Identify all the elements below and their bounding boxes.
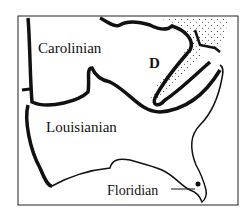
region-label-floridian: Floridian — [107, 183, 158, 199]
region-label-d: D — [149, 55, 160, 72]
carolinian-stub — [22, 89, 30, 90]
region-label-carolinian: Carolinian — [38, 40, 101, 57]
louisianian-boundary — [27, 105, 52, 186]
region-label-louisianian: Louisianian — [46, 119, 117, 136]
floridian-marker — [196, 182, 201, 187]
stippled-region — [150, 18, 228, 104]
